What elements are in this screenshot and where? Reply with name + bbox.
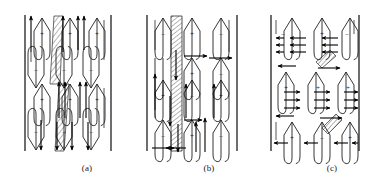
panel-a-row0-domains: + + +	[34, 18, 105, 60]
svg-text:–: –	[218, 132, 223, 140]
svg-text:+: +	[316, 84, 320, 92]
svg-text:–: –	[160, 30, 165, 38]
panel-c: – + – + + + + – +	[271, 15, 359, 164]
panel-b-row0-domains: – + –	[155, 18, 229, 60]
panel-b-caption: (b)	[189, 163, 229, 173]
svg-text:+: +	[346, 84, 350, 92]
panel-c-arrow-bundle-row0	[276, 38, 338, 52]
svg-text:+: +	[68, 30, 72, 38]
svg-text:–: –	[189, 92, 194, 100]
panel-c-row1-domains: + + +	[278, 72, 354, 114]
svg-text:–: –	[33, 66, 38, 74]
panel-a: + + + – – – + + +	[25, 15, 111, 151]
svg-text:–: –	[319, 134, 324, 142]
panel-a-row1-domains: – – –	[28, 46, 99, 88]
svg-text:–: –	[88, 66, 93, 74]
panel-b-row2-domains: + – +	[155, 80, 229, 122]
panel-c-arrow-bundle-row1	[284, 92, 358, 108]
panel-a-caption: (a)	[67, 163, 107, 173]
svg-text:–: –	[61, 66, 66, 74]
svg-text:+: +	[95, 96, 99, 104]
svg-text:+: +	[290, 134, 294, 142]
magnetic-domain-figure: + + + – – – + + +	[0, 0, 377, 190]
panel-c-caption: (c)	[312, 163, 352, 173]
svg-text:+: +	[219, 92, 223, 100]
svg-text:–: –	[218, 30, 223, 38]
svg-text:–: –	[218, 70, 223, 78]
svg-text:+: +	[95, 30, 99, 38]
svg-text:–: –	[160, 132, 165, 140]
svg-text:+: +	[161, 92, 165, 100]
domain-structure-drawing: + + + – – – + + +	[0, 0, 377, 190]
svg-text:+: +	[348, 134, 352, 142]
svg-text:+: +	[190, 70, 194, 78]
panel-c-row0-domains: – + –	[280, 18, 358, 60]
panel-a-row2-domains: + + +	[34, 84, 105, 126]
svg-text:–: –	[88, 128, 93, 136]
svg-text:–: –	[344, 30, 349, 38]
svg-text:+: +	[320, 30, 324, 38]
panel-b-row3-domains: – + –	[155, 120, 229, 162]
svg-text:–: –	[33, 128, 38, 136]
svg-text:+: +	[40, 30, 44, 38]
panel-b: – + – + – + – +	[147, 15, 237, 162]
panel-b-hatched-wall	[171, 16, 182, 151]
svg-text:–: –	[280, 30, 285, 38]
svg-text:+: +	[190, 132, 194, 140]
svg-text:+: +	[190, 30, 194, 38]
svg-text:+: +	[284, 84, 288, 92]
svg-text:+: +	[40, 96, 44, 104]
svg-text:+: +	[68, 96, 72, 104]
